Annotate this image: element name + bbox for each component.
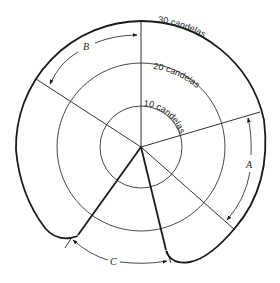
angle-label-a: A	[245, 159, 253, 170]
ring-label-20: 20 candelas	[153, 61, 203, 91]
radial-right	[141, 112, 260, 147]
angle-label-b: B	[83, 41, 89, 52]
angle-c-arc-left	[73, 240, 108, 260]
angle-c-arc-right	[120, 261, 167, 263]
ring-label-30: 30 candelas	[157, 14, 207, 39]
radial-upper-left	[36, 79, 141, 147]
candela-diagram: 10 candelas 20 candelas 30 candelas B A …	[0, 0, 280, 283]
angle-b-arc-right	[95, 35, 137, 43]
cutoff-line-right	[141, 147, 166, 250]
cutoff-line-left	[78, 147, 141, 235]
ring-label-10: 10 candelas	[143, 98, 187, 135]
angle-a-arc-top	[248, 118, 251, 155]
angle-label-c: C	[110, 256, 117, 267]
radial-lower-right	[141, 147, 235, 230]
